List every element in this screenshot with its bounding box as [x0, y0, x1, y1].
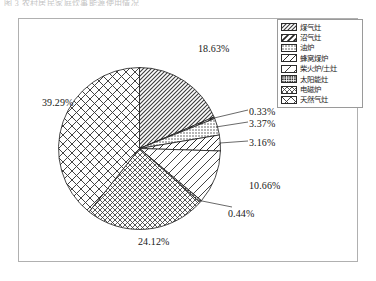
leader-line: [200, 201, 233, 208]
legend-item-label: 蜂窝煤炉: [300, 54, 328, 63]
legend-item-label: 太阳能灶: [300, 75, 328, 84]
slice-value-label: 10.66%: [249, 180, 280, 191]
legend-item-label: 天然气灶: [300, 95, 328, 104]
leader-line: [216, 122, 248, 127]
slice-value-label: 24.12%: [138, 236, 169, 247]
legend-item[interactable]: 沼气灶: [281, 32, 360, 42]
legend-swatch-diagonal-line-sparse-icon: [281, 65, 297, 73]
slice-value-label: 39.29%: [42, 97, 73, 108]
legend-item[interactable]: 太阳能灶: [281, 74, 360, 84]
legend-item[interactable]: 电磁炉: [281, 84, 360, 94]
legend-item-label: 煤气灶: [300, 23, 321, 32]
slice-value-label: 0.33%: [249, 106, 275, 117]
legend-swatch-diagonal-stripe-wide-icon: [281, 34, 297, 42]
legend-item[interactable]: 油炉: [281, 43, 360, 53]
legend-swatch-crosshatch-large-icon: [281, 96, 297, 104]
legend-item-label: 沼气灶: [300, 33, 321, 42]
legend-item[interactable]: 煤气灶: [281, 22, 360, 32]
legend-swatch-dot-grid-dense-icon: [281, 75, 297, 83]
legend-item[interactable]: 天然气灶: [281, 95, 360, 105]
slice-value-label: 3.16%: [249, 137, 275, 148]
chart-legend: 煤气灶 沼气灶 油炉 蜂窝煤炉 柴火炉/土灶 太阳能灶 电磁炉 天然气灶: [277, 19, 363, 108]
slice-value-label: 0.44%: [228, 208, 254, 219]
legend-swatch-diagonal-line-medium-icon: [281, 54, 297, 62]
legend-item-label: 油炉: [300, 43, 314, 52]
legend-item[interactable]: 柴火炉/土灶: [281, 64, 360, 74]
legend-item-label: 电磁炉: [300, 85, 321, 94]
legend-item-label: 柴火炉/土灶: [300, 64, 338, 73]
slice-value-label: 3.37%: [249, 118, 275, 129]
pie-slices: [58, 68, 220, 230]
legend-swatch-diagonal-hatch-fine-icon: [281, 23, 297, 31]
slice-value-label: 18.63%: [198, 43, 229, 54]
leader-line: [213, 110, 248, 118]
legend-item[interactable]: 蜂窝煤炉: [281, 53, 360, 63]
leader-line: [219, 141, 248, 143]
legend-swatch-dot-grid-fine-icon: [281, 44, 297, 52]
legend-swatch-crosshatch-small-icon: [281, 86, 297, 94]
